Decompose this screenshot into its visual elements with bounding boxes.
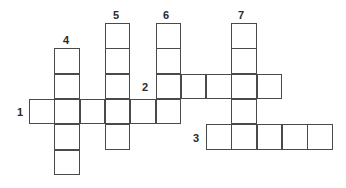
clue-number-7: 7	[238, 10, 244, 21]
crossword-cell[interactable]	[29, 99, 55, 125]
crossword-cell[interactable]	[231, 124, 257, 150]
crossword-cell[interactable]	[156, 23, 182, 49]
clue-number-6: 6	[163, 10, 169, 21]
crossword-cell[interactable]	[105, 124, 131, 150]
crossword-cell[interactable]	[257, 74, 283, 100]
crossword-cell[interactable]	[130, 99, 156, 125]
crossword-cell[interactable]	[257, 124, 283, 150]
clue-number-4: 4	[63, 35, 69, 46]
crossword-cell[interactable]	[105, 99, 131, 125]
crossword-cell[interactable]	[231, 99, 257, 125]
crossword-cell[interactable]	[54, 48, 80, 74]
crossword-cell[interactable]	[54, 150, 80, 176]
crossword-cell[interactable]	[105, 74, 131, 100]
clue-number-2: 2	[142, 82, 148, 93]
crossword-cell[interactable]	[231, 74, 257, 100]
clue-number-1: 1	[17, 107, 23, 118]
crossword-cell[interactable]	[282, 124, 308, 150]
crossword-cell[interactable]	[105, 48, 131, 74]
crossword-cell[interactable]	[105, 23, 131, 49]
crossword-cell[interactable]	[54, 74, 80, 100]
crossword-cell[interactable]	[206, 124, 232, 150]
crossword-cell[interactable]	[80, 99, 106, 125]
crossword-cell[interactable]	[156, 48, 182, 74]
clue-number-3: 3	[193, 133, 199, 144]
clue-number-5: 5	[113, 10, 119, 21]
crossword-cell[interactable]	[181, 74, 207, 100]
crossword-cell[interactable]	[231, 23, 257, 49]
crossword-cell[interactable]	[307, 124, 333, 150]
crossword-cell[interactable]	[54, 124, 80, 150]
crossword-cell[interactable]	[206, 74, 232, 100]
crossword-cell[interactable]	[156, 99, 182, 125]
crossword-cell[interactable]	[156, 74, 182, 100]
crossword-cell[interactable]	[231, 48, 257, 74]
crossword-cell[interactable]	[54, 99, 80, 125]
